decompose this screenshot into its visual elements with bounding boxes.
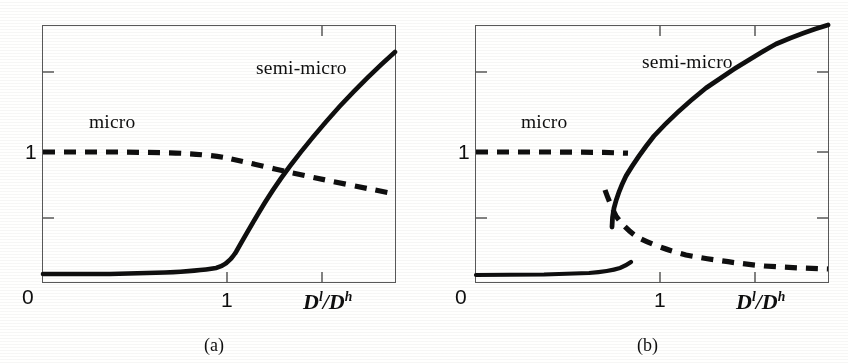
- ytick-label-zero-b: 0: [455, 286, 467, 307]
- chart-panel-a: 1 0 1 micro semi-micro Dl/Dh (a): [0, 0, 424, 363]
- curve-semi-micro-lower-b: [476, 262, 631, 275]
- curve-micro-lower-b: [605, 190, 828, 269]
- x-axis-title-a: Dl/Dh: [303, 290, 352, 313]
- curve-label-semi-micro-b: semi-micro: [642, 52, 733, 72]
- plot-curves-a: [0, 0, 424, 363]
- axis-expr-d2: D: [762, 289, 778, 314]
- xtick-label-one-b: 1: [654, 289, 666, 310]
- y-ticks-a: [42, 72, 54, 218]
- axis-expr-d1: D: [303, 289, 319, 314]
- curve-micro-upper-b: [476, 152, 628, 153]
- axis-expr-sup2: h: [345, 289, 353, 304]
- figure-container: 1 0 1 micro semi-micro Dl/Dh (a): [0, 0, 848, 363]
- curve-semi-micro-a: [43, 52, 395, 274]
- xtick-label-one-a: 1: [221, 289, 233, 310]
- ytick-label-one-a: 1: [25, 141, 37, 162]
- panel-caption-a: (a): [204, 336, 224, 354]
- axis-expr-sup2: h: [778, 289, 786, 304]
- curve-micro-a: [43, 152, 395, 194]
- curve-label-semi-micro-a: semi-micro: [256, 58, 347, 78]
- chart-panel-b: 1 0 1 micro semi-micro Dl/Dh (b): [424, 0, 848, 363]
- y-ticks-b: [475, 72, 829, 218]
- axis-expr-d2: D: [329, 289, 345, 314]
- x-axis-title-b: Dl/Dh: [736, 290, 785, 313]
- axis-expr-d1: D: [736, 289, 752, 314]
- ytick-label-zero-a: 0: [22, 286, 34, 307]
- curve-label-micro-a: micro: [89, 112, 135, 132]
- curve-label-micro-b: micro: [521, 112, 567, 132]
- ytick-label-one-b: 1: [458, 141, 470, 162]
- panel-caption-b: (b): [637, 336, 658, 354]
